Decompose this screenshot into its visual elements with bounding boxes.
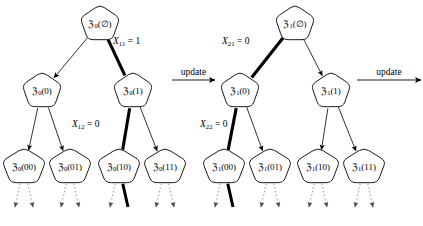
leaf-continuation [274,184,279,207]
diagram-content: ℨ0(∅)ℨ0(0)ℨ0(1)ℨ0(00)ℨ0(01)ℨ0(10)ℨ0(11)X… [4,6,421,207]
tree-edge-highlighted [123,108,130,150]
tree-node-label-t1-n11: ℨ1(11) [352,162,376,173]
leaf-continuation [215,184,220,207]
tree-diagram-svg: ℨ0(∅)ℨ0(0)ℨ0(1)ℨ0(00)ℨ0(01)ℨ0(10)ℨ0(11)X… [0,0,423,226]
update-arrow-2-label: update [376,67,401,77]
leaf-continuation [169,184,174,207]
tree-edge [247,107,263,150]
tree-edge [140,107,157,151]
edge-label-x12: X12 = 0 [71,119,100,130]
figure-canvas: ℨ0(∅)ℨ0(0)ℨ0(1)ℨ0(00)ℨ0(01)ℨ0(10)ℨ0(11)X… [0,0,423,226]
tree-edge-highlighted [252,38,284,78]
leaf-continuation [309,184,314,207]
leaf-continuation [61,184,66,207]
tree-node-label-t0-n11: ℨ0(11) [153,162,177,173]
tree-edge [48,107,63,150]
tree-node-label-t1-n00: ℨ1(00) [212,162,236,173]
leaf-continuation [261,184,266,207]
tree-node-label-t1-root: ℨ1(∅) [283,19,306,30]
leaf-continuation [15,184,20,207]
tree-node-label-t1-n01: ℨ1(01) [258,162,282,173]
tree-node-label-t1-n1: ℨ1(1) [321,86,341,97]
edge-label-x11: X11 = 1 [112,36,140,47]
leaf-continuation [156,184,161,207]
tree-edge [304,39,323,75]
tree-node-label-t0-n1: ℨ0(1) [123,86,143,97]
edge-label-x22: X22 = 0 [199,119,228,130]
update-arrow-1-label: update [181,67,206,77]
tree-node-label-t1-n0: ℨ1(0) [230,86,250,97]
tree-node-label-t1-n10: ℨ1(10) [306,162,330,173]
leaf-continuation [368,184,373,207]
leaf-continuation [110,184,115,207]
tree-node-label-t0-n01: ℨ0(01) [58,162,82,173]
tree-node-label-t0-n0: ℨ0(0) [32,86,52,97]
tree-edge [338,107,356,151]
edge-label-x21: X21 = 0 [221,36,250,47]
leaf-continuation [322,184,327,207]
tree-edge [29,108,38,150]
leaf-continuation [28,184,33,207]
tree-edge-highlighted [228,108,236,150]
tree-edge [54,37,88,78]
leaf-continuation [355,184,360,207]
leaf-continuation [74,184,79,207]
tree-node-label-t0-n10: ℨ0(10) [107,162,131,173]
leaf-continuation-highlighted [123,184,128,207]
leaf-continuation-highlighted [228,184,233,207]
tree-node-label-t0-root: ℨ0(∅) [88,19,111,30]
tree-edge [321,108,327,150]
tree-node-label-t0-n00: ℨ0(00) [12,162,36,173]
